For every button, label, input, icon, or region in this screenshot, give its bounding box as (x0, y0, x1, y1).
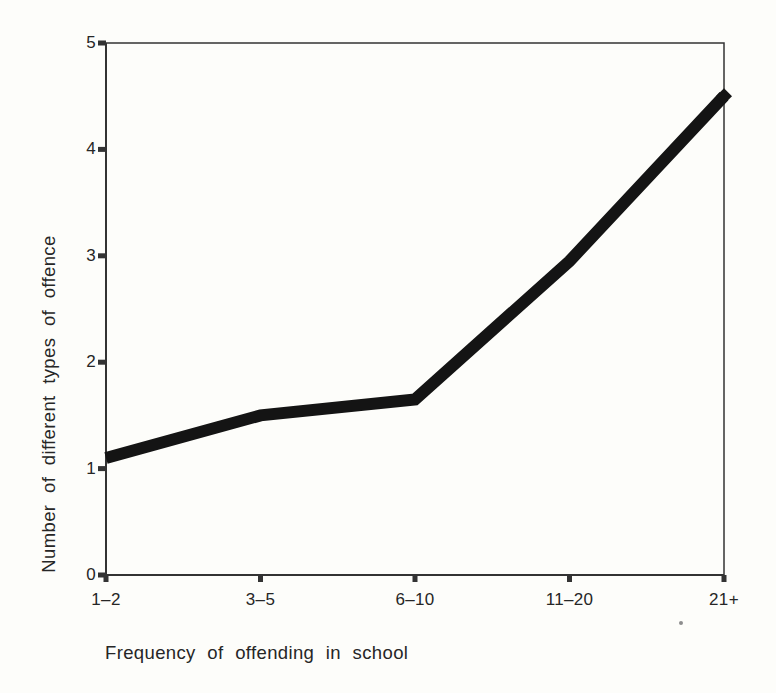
y-tick-label: 4 (52, 139, 96, 159)
x-tick-label: 6–10 (395, 590, 434, 610)
x-tick-mark (258, 575, 263, 582)
x-tick-mark (567, 575, 572, 582)
y-tick-mark (98, 360, 106, 365)
y-axis-title-text: Number of different types of offence (38, 235, 60, 572)
x-tick-mark (413, 575, 418, 582)
x-tick-mark (722, 575, 727, 582)
y-tick-mark (98, 41, 106, 46)
x-tick-label: 1–2 (91, 590, 120, 610)
x-tick-label: 3–5 (246, 590, 275, 610)
x-tick-label: 21+ (709, 590, 739, 610)
x-tick-label: 11–20 (546, 590, 594, 610)
x-tick-mark (104, 575, 109, 582)
data-line (106, 96, 724, 458)
y-tick-mark (98, 147, 106, 152)
plot-frame (106, 43, 724, 575)
y-tick-mark (98, 253, 106, 258)
y-tick-label: 5 (52, 33, 96, 53)
x-axis-title: Frequency of offending in school (105, 642, 408, 664)
x-axis-title-text: Frequency of offending in school (105, 642, 408, 663)
y-tick-mark (98, 466, 106, 471)
print-speck (679, 621, 683, 625)
chart-figure: 012345 1–23–56–1011–2021+ Number of diff… (0, 0, 776, 693)
